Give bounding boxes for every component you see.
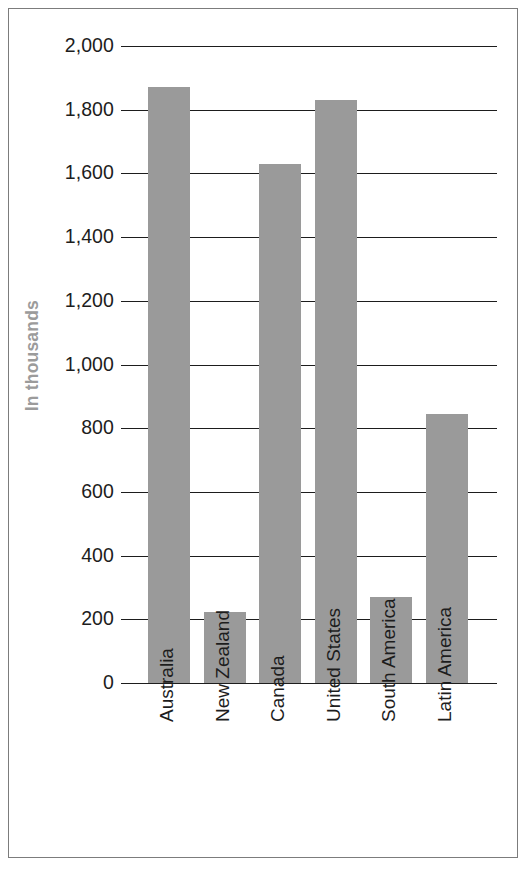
y-axis-tick-label: 1,600 xyxy=(2,163,114,183)
gridline xyxy=(121,46,497,47)
y-axis-tick-label: 1,800 xyxy=(2,100,114,120)
y-axis-tick-label: 1,200 xyxy=(2,291,114,311)
x-axis-tick-label: New Zealand xyxy=(213,610,232,722)
x-axis-tick-label: Canada xyxy=(268,655,287,722)
bar xyxy=(315,100,357,683)
bar xyxy=(259,164,301,683)
x-axis-tick-label: United States xyxy=(324,608,343,722)
y-axis-tick-label: 0 xyxy=(2,673,114,693)
bar xyxy=(148,87,190,683)
y-axis-tick-label: 200 xyxy=(2,609,114,629)
y-axis-tick-label: 1,400 xyxy=(2,227,114,247)
x-axis-tick-label: Australia xyxy=(157,648,176,722)
plot-area: 02004006008001,0001,2001,4001,6001,8002,… xyxy=(0,0,527,875)
y-axis-tick-label: 800 xyxy=(2,418,114,438)
y-axis-tick-label: 2,000 xyxy=(2,36,114,56)
x-axis-tick-label: South America xyxy=(379,598,398,722)
chart-figure: 02004006008001,0001,2001,4001,6001,8002,… xyxy=(0,0,527,875)
y-axis-tick-label: 600 xyxy=(2,482,114,502)
y-axis-tick-label: 1,000 xyxy=(2,355,114,375)
y-axis-title: In thousands xyxy=(22,300,43,411)
x-axis-tick-label: Latin America xyxy=(435,607,454,722)
y-axis-tick-label: 400 xyxy=(2,546,114,566)
